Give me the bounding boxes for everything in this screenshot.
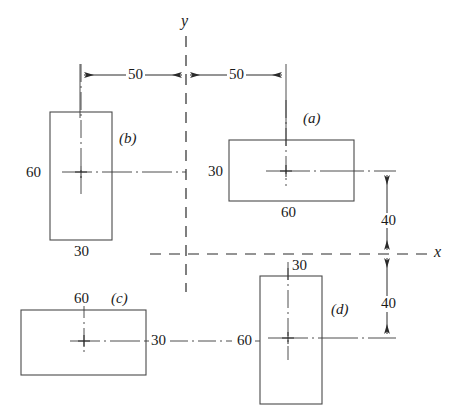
axis-lines: [150, 36, 428, 292]
rect-b-tag: (b): [117, 131, 139, 146]
rect-a-height-label: 30: [206, 164, 225, 179]
dim-label-right-50: 50: [227, 67, 246, 82]
dimension-horizontal-50-group: [80, 64, 286, 146]
rect-c-group: [21, 300, 260, 375]
figure-canvas: y x 50 50 40 40 (a) 30 60 (b) 60 30 (c) …: [0, 0, 459, 420]
rect-c-tag: (c): [109, 291, 130, 306]
rect-b-width-label: 30: [72, 244, 91, 259]
rect-b-height-label: 60: [24, 165, 43, 180]
rect-a-tag: (a): [301, 111, 323, 126]
rect-d-group: [260, 262, 396, 404]
rect-c-width-label: 60: [72, 291, 91, 306]
rect-a-width-label: 60: [279, 205, 298, 220]
dim-label-lower-40: 40: [379, 296, 398, 311]
axis-label-y: y: [179, 13, 190, 29]
technical-drawing-svg: [0, 0, 459, 420]
rect-c-height-label: 30: [149, 333, 168, 348]
dim-label-upper-40: 40: [379, 213, 398, 228]
axis-label-x: x: [432, 244, 443, 260]
rect-d-tag: (d): [329, 302, 351, 317]
rect-d-height-label: 60: [235, 333, 254, 348]
rect-b-group: [50, 64, 186, 240]
dim-label-left-50: 50: [126, 67, 145, 82]
rect-d-width-label: 30: [290, 258, 309, 273]
rect-d: [260, 276, 322, 404]
